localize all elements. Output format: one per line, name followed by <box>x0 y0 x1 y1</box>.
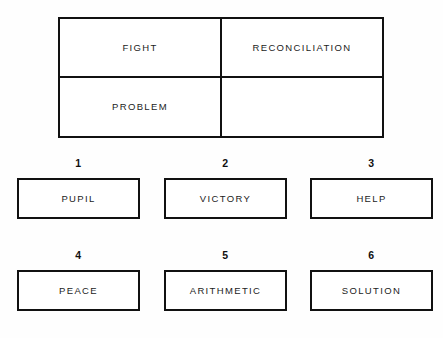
numbered-box-grid: 1 PUPIL 2 VICTORY 3 HELP 4 <box>0 155 443 338</box>
word-cell-label: RECONCILIATION <box>253 42 352 53</box>
box-frame[interactable]: SOLUTION <box>310 270 433 311</box>
word-table: FIGHT RECONCILIATION PROBLEM <box>58 17 384 138</box>
numbered-box-1: 1 PUPIL <box>17 155 140 219</box>
box-frame[interactable]: VICTORY <box>164 178 287 219</box>
box-frame[interactable]: PEACE <box>17 270 140 311</box>
box-frame[interactable]: ARITHMETIC <box>164 270 287 311</box>
worksheet-canvas: FIGHT RECONCILIATION PROBLEM 1 PUPIL 2 <box>0 0 443 338</box>
word-cell-label: FIGHT <box>122 42 157 53</box>
box-word-label: HELP <box>356 193 386 204</box>
box-number-label: 2 <box>164 155 287 171</box>
word-cell-label: PROBLEM <box>112 101 168 112</box>
box-number-label: 6 <box>310 247 433 263</box>
word-cell-problem[interactable]: PROBLEM <box>60 78 222 137</box>
numbered-box-3: 3 HELP <box>310 155 433 219</box>
box-word-label: ARITHMETIC <box>190 285 262 296</box>
box-number-label: 1 <box>17 155 140 171</box>
box-word-label: PEACE <box>59 285 98 296</box>
box-number-label: 3 <box>310 155 433 171</box>
numbered-box-row: 4 PEACE 5 ARITHMETIC 6 SOLUTION <box>0 247 443 338</box>
box-number-label: 4 <box>17 247 140 263</box>
word-cell-empty[interactable] <box>222 78 382 137</box>
word-cell-reconciliation[interactable]: RECONCILIATION <box>222 19 382 78</box>
box-frame[interactable]: PUPIL <box>17 178 140 219</box>
box-word-label: PUPIL <box>61 193 95 204</box>
numbered-box-4: 4 PEACE <box>17 247 140 311</box>
word-cell-fight[interactable]: FIGHT <box>60 19 222 78</box>
numbered-box-6: 6 SOLUTION <box>310 247 433 311</box>
numbered-box-row: 1 PUPIL 2 VICTORY 3 HELP <box>0 155 443 247</box>
box-word-label: SOLUTION <box>342 285 401 296</box>
box-word-label: VICTORY <box>200 193 251 204</box>
box-number-label: 5 <box>164 247 287 263</box>
box-frame[interactable]: HELP <box>310 178 433 219</box>
numbered-box-2: 2 VICTORY <box>164 155 287 219</box>
numbered-box-5: 5 ARITHMETIC <box>164 247 287 311</box>
